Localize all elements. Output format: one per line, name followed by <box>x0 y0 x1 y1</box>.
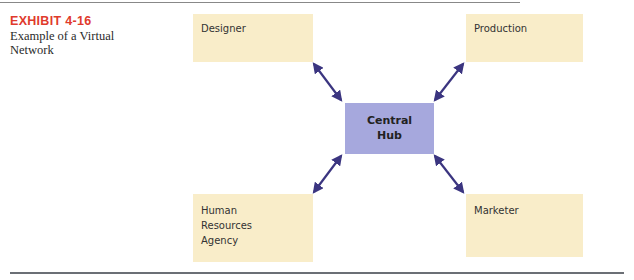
node-label: Designer <box>201 21 305 36</box>
node-label: Production <box>474 21 575 36</box>
bottom-rule <box>10 272 624 274</box>
node-marketer: Marketer <box>466 194 583 257</box>
node-production: Production <box>466 14 583 62</box>
node-label-line-1: Human <box>201 203 305 218</box>
node-label-line-2: Resources <box>201 218 305 233</box>
link-production-arrow <box>435 64 463 100</box>
central-hub: Central Hub <box>345 103 434 154</box>
node-designer: Designer <box>193 14 313 62</box>
link-marketer-arrow <box>435 156 463 192</box>
hub-label-line-1: Central <box>345 113 434 128</box>
node-label-line-3: Agency <box>201 233 305 248</box>
link-human-resources-arrow <box>314 156 341 192</box>
node-human-resources-agency: Human Resources Agency <box>193 194 313 262</box>
hub-label-line-2: Hub <box>345 128 434 143</box>
node-label: Marketer <box>474 203 575 218</box>
link-designer-arrow <box>314 64 341 100</box>
